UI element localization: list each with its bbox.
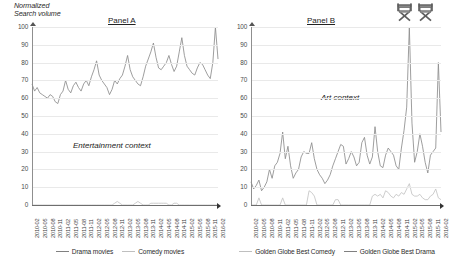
y-tick-label: 50 [12, 112, 28, 119]
series-line [251, 27, 441, 191]
legend-label: Golden Globe Best Drama [360, 248, 435, 255]
gridline [32, 169, 218, 170]
y-tick-label: 30 [12, 148, 28, 155]
legend-item[interactable]: Golden Globe Best Drama [344, 248, 435, 255]
x-tick-label: 2015-02 [412, 219, 418, 238]
gridline [251, 116, 441, 117]
legend-label: Drama movies [72, 248, 113, 255]
gridline [251, 187, 441, 188]
gridline [251, 63, 441, 64]
x-tick-label: 2010-05 [42, 219, 48, 238]
y-tick-label: 100 [231, 23, 247, 30]
y-tick-label: 60 [231, 94, 247, 101]
legend-swatch [239, 251, 252, 252]
x-tick-label: 2012-11 [340, 219, 346, 238]
x-tick-label: 2012-05 [104, 219, 110, 238]
y-tick-label: 0 [231, 201, 247, 208]
y-tick-label: 50 [231, 112, 247, 119]
y-tick-label: 10 [12, 183, 28, 190]
gridline [32, 63, 218, 64]
x-tick-label: 2013-02 [348, 219, 354, 238]
y-axis-caption: Normalized Search volume [14, 2, 61, 19]
panel-a-y-axis [32, 27, 33, 206]
y-tick-label: 10 [231, 183, 247, 190]
x-tick-label: 2013-05 [356, 219, 362, 238]
x-tick-label: 2011-08 [301, 219, 307, 238]
x-tick-label: 2011-05 [73, 219, 79, 238]
x-tick-label: 2013-08 [143, 219, 149, 238]
panel-a-legend: Drama moviesComedy movies [30, 245, 210, 257]
x-tick-label: 2010-02 [34, 219, 40, 238]
gridline [32, 98, 218, 99]
x-tick-label: 2012-08 [112, 219, 118, 238]
x-tick-label: 2010-11 [277, 219, 283, 238]
legend-item[interactable]: Comedy movies [122, 248, 184, 255]
x-tick-label: 2012-11 [119, 219, 125, 238]
x-tick-label: 2010-08 [269, 219, 275, 238]
x-tick-label: 2011-02 [65, 219, 71, 238]
x-tick-label: 2016-02 [443, 219, 449, 238]
x-tick-label: 2013-11 [372, 219, 378, 238]
x-tick-label: 2014-05 [166, 219, 172, 238]
x-tick-label: 2015-08 [427, 219, 433, 238]
legend-swatch [56, 251, 69, 252]
y-tick-label: 90 [231, 41, 247, 48]
x-tick-label: 2014-02 [380, 219, 386, 238]
x-tick-label: 2010-02 [253, 219, 259, 238]
panel-a-title: Panel A [108, 16, 136, 25]
y-tick-label: 80 [12, 59, 28, 66]
y-tick-label: 70 [12, 76, 28, 83]
x-tick-label: 2010-05 [261, 219, 267, 238]
legend-item[interactable]: Golden Globe Best Comedy [239, 248, 335, 255]
panel-b-legend: Golden Globe Best ComedyGolden Globe Bes… [231, 245, 443, 257]
gridline [32, 152, 218, 153]
x-tick-label: 2015-11 [212, 219, 218, 238]
y-tick-label: 70 [231, 76, 247, 83]
y-tick-label: 80 [231, 59, 247, 66]
panel-a-y-axis-arrow [30, 22, 36, 26]
gridline [32, 187, 218, 188]
gridline [32, 27, 218, 28]
legend-swatch [344, 251, 357, 252]
gridline [32, 45, 218, 46]
x-tick-label: 2015-11 [435, 219, 441, 238]
legend-swatch [122, 251, 135, 252]
x-tick-label: 2011-11 [88, 219, 94, 238]
x-tick-label: 2013-11 [150, 219, 156, 238]
panel-a-x-axis [32, 205, 218, 206]
x-tick-label: 2013-02 [127, 219, 133, 238]
y-tick-label: 100 [12, 23, 28, 30]
x-tick-label: 2012-05 [324, 219, 330, 238]
y-tick-label: 60 [12, 94, 28, 101]
x-tick-label: 2014-05 [388, 219, 394, 238]
y-tick-label: 40 [12, 130, 28, 137]
gridline [251, 80, 441, 81]
panel-a: Normalized Search volume Panel A Enterta… [0, 0, 223, 268]
series-line [32, 27, 218, 104]
x-tick-label: 2012-02 [96, 219, 102, 238]
x-tick-label: 2010-11 [57, 219, 63, 238]
gridline [251, 98, 441, 99]
x-tick-label: 2012-02 [317, 219, 323, 238]
x-tick-label: 2014-08 [396, 219, 402, 238]
x-tick-label: 2011-05 [293, 219, 299, 238]
x-tick-label: 2011-02 [285, 219, 291, 238]
x-tick-label: 2013-08 [364, 219, 370, 238]
x-tick-label: 2015-02 [189, 219, 195, 238]
x-tick-label: 2013-05 [135, 219, 141, 238]
x-tick-label: 2012-08 [332, 219, 338, 238]
x-tick-label: 2011-11 [309, 219, 315, 238]
x-tick-label: 2010-08 [50, 219, 56, 238]
x-tick-label: 2015-08 [205, 219, 211, 238]
y-tick-label: 20 [231, 165, 247, 172]
directors-chair-icon [395, 2, 414, 22]
gridline [251, 169, 441, 170]
legend-item[interactable]: Drama movies [56, 248, 113, 255]
x-tick-label: 2015-05 [419, 219, 425, 238]
x-tick-label: 2014-11 [404, 219, 410, 238]
gridline [32, 116, 218, 117]
x-tick-label: 2011-08 [81, 219, 87, 238]
panel-a-x-axis-arrow [217, 203, 221, 209]
legend-label: Golden Globe Best Comedy [255, 248, 335, 255]
